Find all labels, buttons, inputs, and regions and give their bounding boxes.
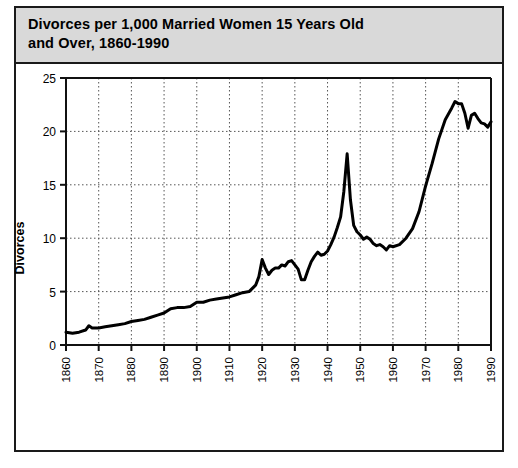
x-tick-label: 1920	[256, 357, 268, 383]
y-ticks-group: 0510152025	[43, 72, 66, 353]
x-tick-label: 1880	[125, 357, 137, 383]
x-ticks-group: 1860187018801890190019101920193019401950…	[60, 345, 497, 383]
x-tick-label: 1930	[289, 357, 301, 383]
x-tick-label: 1950	[354, 357, 366, 383]
x-tick-label: 1980	[452, 357, 464, 383]
x-tick-label: 1890	[158, 357, 170, 383]
plot-area: 0510152025 18601870188018901900191019201…	[16, 64, 502, 452]
axis-lines-group	[66, 78, 491, 345]
y-axis-title: Divorces	[13, 222, 27, 275]
x-tick-label: 1960	[387, 357, 399, 383]
x-tick-label: 1940	[322, 357, 334, 383]
y-tick-label: 5	[49, 286, 56, 300]
y-tick-label: 20	[43, 125, 57, 139]
x-tick-label: 1970	[420, 357, 432, 383]
y-tick-label: 15	[43, 179, 57, 193]
gridlines-group	[66, 78, 491, 345]
x-tick-label: 1870	[93, 357, 105, 383]
y-tick-label: 10	[43, 232, 57, 246]
x-tick-label: 1990	[485, 357, 497, 383]
figure-panel: Divorces per 1,000 Married Women 15 Year…	[14, 6, 504, 452]
line-chart: 0510152025 18601870188018901900191019201…	[16, 64, 502, 452]
divorce-rate-line	[66, 102, 491, 334]
figure-title: Divorces per 1,000 Married Women 15 Year…	[28, 15, 502, 53]
x-tick-label: 1860	[60, 357, 72, 383]
x-tick-label: 1910	[223, 357, 235, 383]
x-tick-label: 1900	[191, 357, 203, 383]
y-tick-label: 0	[49, 339, 56, 353]
y-tick-label: 25	[43, 72, 57, 86]
figure-title-bar: Divorces per 1,000 Married Women 15 Year…	[16, 8, 502, 64]
